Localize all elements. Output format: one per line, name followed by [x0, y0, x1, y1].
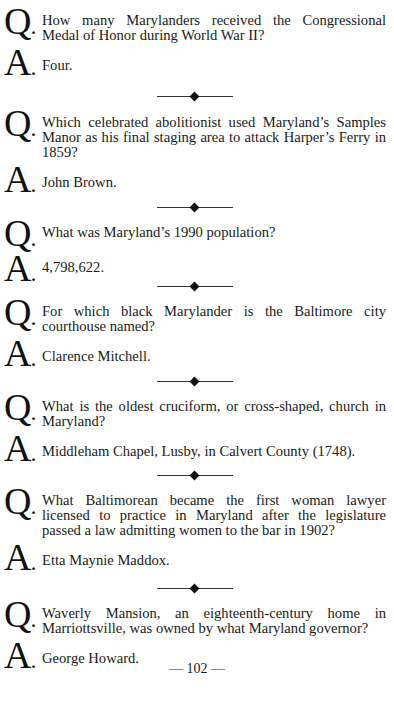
- question: Q. How many Marylanders received the Con…: [4, 6, 388, 43]
- answer-text: 4,798,622.: [42, 253, 388, 275]
- a-marker: A.: [4, 164, 42, 199]
- question-text: What Baltimorean became the first woman …: [42, 486, 388, 538]
- question: Q. Waverly Mansion, an eighteenth-centur…: [4, 599, 388, 636]
- qa-item: Q. Which celebrated abolitionist used Ma…: [4, 108, 388, 199]
- answer-text: Clarence Mitchell.: [42, 338, 388, 364]
- question-text: For which black Marylander is the Baltim…: [42, 297, 388, 334]
- answer: A. Middleham Chapel, Lusby, in Calvert C…: [4, 433, 388, 468]
- q-marker: Q.: [4, 6, 42, 41]
- q-marker: Q.: [4, 392, 42, 427]
- diamond-icon: [190, 282, 200, 292]
- ornament-divider: [157, 203, 233, 213]
- answer: A. Clarence Mitchell.: [4, 338, 388, 373]
- question: Q. What Baltimorean became the first wom…: [4, 486, 388, 538]
- answer-text: Etta Maynie Maddox.: [42, 542, 388, 568]
- qa-item: Q. What is the oldest cruciform, or cros…: [4, 392, 388, 468]
- ornament-divider: [157, 377, 233, 387]
- diamond-icon: [190, 584, 200, 594]
- ornament-divider: [157, 92, 233, 102]
- question: Q. What was Maryland’s 1990 population?: [4, 218, 388, 253]
- diamond-icon: [190, 203, 200, 213]
- answer: A. Etta Maynie Maddox.: [4, 542, 388, 577]
- question: Q. What is the oldest cruciform, or cros…: [4, 392, 388, 429]
- q-marker: Q.: [4, 297, 42, 332]
- diamond-icon: [190, 471, 200, 481]
- q-marker: Q.: [4, 108, 42, 143]
- ornament-divider: [157, 584, 233, 594]
- qa-item: Q. What was Maryland’s 1990 population? …: [4, 218, 388, 288]
- q-marker: Q.: [4, 486, 42, 521]
- a-marker: A.: [4, 47, 42, 82]
- answer: A. John Brown.: [4, 164, 388, 199]
- question: Q. For which black Marylander is the Bal…: [4, 297, 388, 334]
- q-marker: Q.: [4, 599, 42, 634]
- book-page: Q. How many Marylanders received the Con…: [0, 0, 394, 703]
- answer: A. Four.: [4, 47, 388, 82]
- a-marker: A.: [4, 542, 42, 577]
- question-text: Which celebrated abolitionist used Maryl…: [42, 108, 388, 160]
- answer-text: Four.: [42, 47, 388, 73]
- diamond-icon: [190, 92, 200, 102]
- question-text: Waverly Mansion, an eighteenth-century h…: [42, 599, 388, 636]
- question-text: What was Maryland’s 1990 population?: [42, 218, 388, 240]
- answer-text: John Brown.: [42, 164, 388, 190]
- qa-item: Q. What Baltimorean became the first wom…: [4, 486, 388, 577]
- a-marker: A.: [4, 433, 42, 468]
- a-marker: A.: [4, 338, 42, 373]
- ornament-divider: [157, 282, 233, 292]
- question-text: What is the oldest cruciform, or cross-s…: [42, 392, 388, 429]
- question-text: How many Marylanders received the Congre…: [42, 6, 388, 43]
- question: Q. Which celebrated abolitionist used Ma…: [4, 108, 388, 160]
- a-marker: A.: [4, 253, 42, 288]
- ornament-divider: [157, 471, 233, 481]
- answer-text: Middleham Chapel, Lusby, in Calvert Coun…: [42, 433, 388, 459]
- page-number: — 102 —: [0, 661, 394, 677]
- qa-item: Q. For which black Marylander is the Bal…: [4, 297, 388, 373]
- qa-item: Q. How many Marylanders received the Con…: [4, 6, 388, 82]
- diamond-icon: [190, 377, 200, 387]
